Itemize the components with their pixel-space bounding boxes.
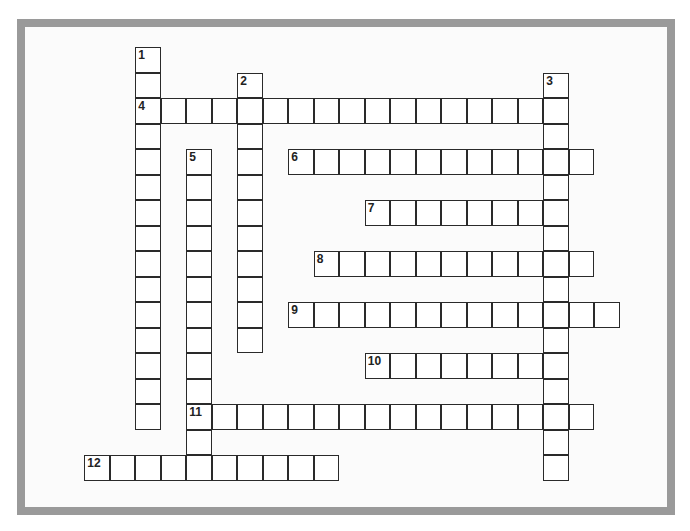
crossword-cell[interactable] xyxy=(543,404,569,430)
crossword-cell[interactable] xyxy=(237,226,263,252)
crossword-cell[interactable] xyxy=(441,302,467,328)
crossword-cell[interactable] xyxy=(467,251,493,277)
crossword-cell[interactable] xyxy=(543,251,569,277)
crossword-cell[interactable] xyxy=(314,149,340,175)
crossword-cell[interactable] xyxy=(543,124,569,150)
crossword-cell[interactable] xyxy=(569,251,595,277)
crossword-cell[interactable] xyxy=(390,98,416,124)
crossword-cell[interactable] xyxy=(518,149,544,175)
crossword-cell[interactable] xyxy=(543,353,569,379)
crossword-cell[interactable] xyxy=(186,430,212,456)
crossword-cell[interactable] xyxy=(416,353,442,379)
crossword-cell[interactable] xyxy=(416,404,442,430)
crossword-cell[interactable] xyxy=(518,353,544,379)
crossword-cell[interactable]: 3 xyxy=(543,73,569,99)
crossword-cell[interactable] xyxy=(365,98,391,124)
crossword-cell[interactable] xyxy=(594,302,620,328)
crossword-cell[interactable] xyxy=(467,302,493,328)
crossword-cell[interactable] xyxy=(518,251,544,277)
crossword-cell[interactable] xyxy=(416,149,442,175)
crossword-cell[interactable] xyxy=(135,353,161,379)
crossword-cell[interactable] xyxy=(339,251,365,277)
crossword-cell[interactable] xyxy=(543,379,569,405)
crossword-cell[interactable] xyxy=(543,328,569,354)
crossword-cell[interactable]: 8 xyxy=(314,251,340,277)
crossword-cell[interactable]: 6 xyxy=(288,149,314,175)
crossword-cell[interactable] xyxy=(237,302,263,328)
crossword-cell[interactable] xyxy=(135,226,161,252)
crossword-cell[interactable] xyxy=(492,353,518,379)
crossword-cell[interactable] xyxy=(416,200,442,226)
crossword-cell[interactable]: 7 xyxy=(365,200,391,226)
crossword-cell[interactable]: 4 xyxy=(135,98,161,124)
crossword-cell[interactable] xyxy=(569,302,595,328)
crossword-cell[interactable] xyxy=(441,98,467,124)
crossword-cell[interactable] xyxy=(492,404,518,430)
crossword-cell[interactable] xyxy=(543,149,569,175)
crossword-cell[interactable] xyxy=(543,98,569,124)
crossword-cell[interactable] xyxy=(441,200,467,226)
crossword-cell[interactable] xyxy=(135,251,161,277)
crossword-cell[interactable] xyxy=(416,302,442,328)
crossword-cell[interactable] xyxy=(186,302,212,328)
crossword-cell[interactable] xyxy=(263,98,289,124)
crossword-cell[interactable] xyxy=(390,353,416,379)
crossword-cell[interactable] xyxy=(314,404,340,430)
crossword-cell[interactable]: 9 xyxy=(288,302,314,328)
crossword-cell[interactable] xyxy=(135,328,161,354)
crossword-cell[interactable] xyxy=(365,302,391,328)
crossword-cell[interactable]: 11 xyxy=(186,404,212,430)
crossword-cell[interactable] xyxy=(135,124,161,150)
crossword-cell[interactable] xyxy=(441,149,467,175)
crossword-cell[interactable] xyxy=(237,251,263,277)
crossword-cell[interactable] xyxy=(237,149,263,175)
crossword-cell[interactable] xyxy=(212,455,238,481)
crossword-cell[interactable] xyxy=(543,302,569,328)
crossword-cell[interactable] xyxy=(492,251,518,277)
crossword-cell[interactable] xyxy=(263,455,289,481)
crossword-cell[interactable] xyxy=(518,302,544,328)
crossword-cell[interactable] xyxy=(390,251,416,277)
crossword-cell[interactable]: 10 xyxy=(365,353,391,379)
crossword-cell[interactable]: 5 xyxy=(186,149,212,175)
crossword-cell[interactable] xyxy=(569,149,595,175)
crossword-cell[interactable] xyxy=(186,226,212,252)
crossword-cell[interactable] xyxy=(237,98,263,124)
crossword-cell[interactable] xyxy=(161,98,187,124)
crossword-cell[interactable] xyxy=(467,353,493,379)
crossword-cell[interactable] xyxy=(212,98,238,124)
crossword-cell[interactable] xyxy=(314,302,340,328)
crossword-cell[interactable] xyxy=(416,251,442,277)
crossword-cell[interactable] xyxy=(569,404,595,430)
crossword-cell[interactable] xyxy=(467,98,493,124)
crossword-cell[interactable] xyxy=(543,277,569,303)
crossword-cell[interactable] xyxy=(237,328,263,354)
crossword-cell[interactable] xyxy=(339,98,365,124)
crossword-cell[interactable] xyxy=(186,251,212,277)
crossword-cell[interactable] xyxy=(186,328,212,354)
crossword-cell[interactable] xyxy=(212,404,238,430)
crossword-cell[interactable] xyxy=(237,124,263,150)
crossword-cell[interactable] xyxy=(186,379,212,405)
crossword-cell[interactable] xyxy=(263,404,289,430)
crossword-cell[interactable] xyxy=(365,404,391,430)
crossword-cell[interactable] xyxy=(237,200,263,226)
crossword-cell[interactable] xyxy=(135,379,161,405)
crossword-cell[interactable] xyxy=(314,98,340,124)
crossword-cell[interactable] xyxy=(135,455,161,481)
crossword-cell[interactable] xyxy=(467,404,493,430)
crossword-cell[interactable] xyxy=(135,277,161,303)
crossword-cell[interactable] xyxy=(135,404,161,430)
crossword-cell[interactable] xyxy=(186,200,212,226)
crossword-cell[interactable] xyxy=(186,277,212,303)
crossword-cell[interactable] xyxy=(390,149,416,175)
crossword-cell[interactable] xyxy=(135,302,161,328)
crossword-cell[interactable] xyxy=(288,455,314,481)
crossword-cell[interactable] xyxy=(416,98,442,124)
crossword-cell[interactable] xyxy=(237,175,263,201)
crossword-cell[interactable] xyxy=(339,404,365,430)
crossword-cell[interactable] xyxy=(467,149,493,175)
crossword-cell[interactable] xyxy=(186,175,212,201)
crossword-cell[interactable] xyxy=(441,404,467,430)
crossword-cell[interactable] xyxy=(492,200,518,226)
